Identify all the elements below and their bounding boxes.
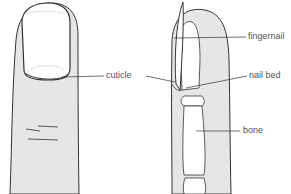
finger-illustrations (0, 0, 291, 194)
label-nail-bed: nail bed (249, 70, 281, 80)
finger-cross-section (172, 2, 231, 194)
finger-external-view (10, 3, 79, 194)
label-bone: bone (243, 125, 263, 135)
label-fingernail: fingernail (248, 31, 285, 41)
label-cuticle: cuticle (106, 70, 132, 80)
finger-nail-diagram: cuticle fingernail nail bed bone (0, 0, 291, 194)
